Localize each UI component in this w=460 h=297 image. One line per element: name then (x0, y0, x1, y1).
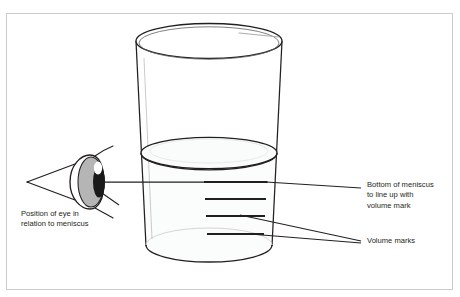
figure-frame (6, 13, 453, 290)
label-meniscus-bottom: Bottom of meniscus to line up with volum… (367, 180, 459, 211)
meniscus (141, 137, 277, 169)
label-volume-marks: Volume marks (367, 236, 459, 246)
label-eye-position: Position of eye in relation to meniscus (21, 209, 136, 230)
beaker-rim-outer (136, 24, 282, 59)
figure-screenshot: · · · (0, 0, 460, 297)
eye-upper-lash (95, 146, 113, 156)
residue-text: · · · (8, 0, 20, 2)
eye-highlight (94, 162, 102, 175)
page-residue-strip: · · · (0, 0, 460, 12)
leader-line-meniscus (266, 182, 361, 188)
beaker-diagram-svg (7, 14, 452, 289)
eye (27, 146, 113, 218)
